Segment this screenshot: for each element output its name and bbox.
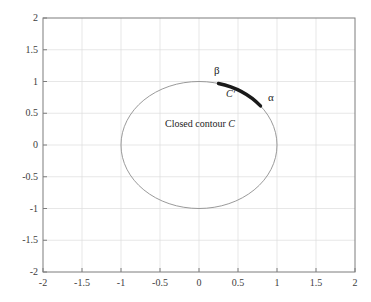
beta-label: β (214, 65, 220, 76)
x-tick-label-8: 2 (353, 278, 358, 288)
x-tick-label-0: -2 (39, 278, 47, 288)
x-tick-label-2: -1 (117, 278, 125, 288)
closed-contour-text: Closed contour (165, 118, 228, 129)
y-tick-label-3: 0.5 (16, 108, 38, 118)
x-tick-label-6: 1 (275, 278, 280, 288)
alpha-label: α (268, 92, 274, 103)
contour-plot-figure: -2 -1.5 -1 -0.5 0 0.5 1 1.5 2 2 1.5 1 0.… (0, 0, 371, 302)
x-tick-label-3: -0.5 (152, 278, 168, 288)
closed-contour-symbol: C (228, 118, 235, 129)
x-tick-label-5: 0.5 (232, 278, 245, 288)
y-tick-label-1: 1.5 (16, 45, 38, 55)
y-tick-label-6: -1 (16, 204, 38, 214)
y-tick-label-0: 2 (16, 13, 38, 23)
y-tick-label-8: -2 (16, 267, 38, 277)
y-tick-label-7: -1.5 (16, 235, 38, 245)
y-tick-label-4: 0 (16, 140, 38, 150)
closed-contour-label: Closed contour C (165, 119, 235, 129)
y-tick-label-5: -0.5 (16, 172, 38, 182)
x-tick-label-4: 0 (197, 278, 202, 288)
x-tick-label-7: 1.5 (310, 278, 323, 288)
y-tick-label-2: 1 (16, 77, 38, 87)
plot-canvas (0, 0, 371, 302)
x-tick-label-1: -1.5 (74, 278, 90, 288)
c-prime-label: Cʹ (226, 89, 235, 99)
